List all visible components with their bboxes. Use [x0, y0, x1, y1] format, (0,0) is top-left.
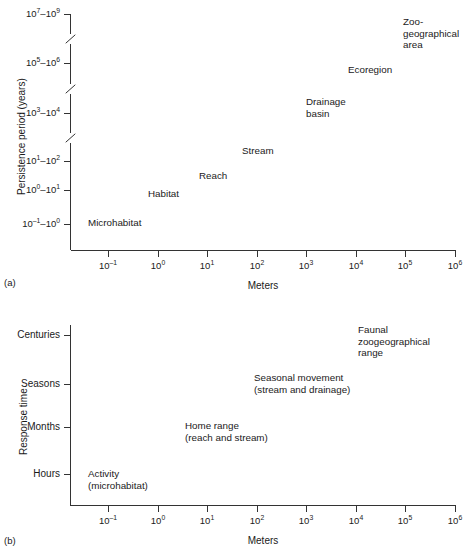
- data-label-faunal-line2: zoogeographical: [358, 336, 430, 348]
- y-tick-label: 10–1–100: [0, 219, 60, 229]
- x-tick-label: 105: [398, 516, 412, 526]
- x-tick-label: 102: [250, 261, 264, 271]
- x-tick-label: 106: [448, 516, 462, 526]
- x-tick-label: 10–1: [99, 516, 117, 526]
- data-label-faunal-range: Faunal zoogeographical range: [358, 324, 430, 359]
- axis-break-mark: [66, 134, 75, 142]
- data-label-home-range: Home range (reach and stream): [185, 420, 268, 443]
- x-tick-label: 105: [398, 261, 412, 271]
- data-label-activity-line1: Activity: [88, 468, 148, 480]
- data-label-home-range-line2: (reach and stream): [185, 432, 268, 444]
- y-tick-label: 100–101: [0, 185, 60, 195]
- x-tick-label: 10–1: [99, 261, 117, 271]
- x-tick-label: 100: [151, 516, 165, 526]
- data-label-ecoregion: Ecoregion: [348, 64, 392, 76]
- y-tick-label-centuries: Centuries: [0, 330, 60, 340]
- data-label-reach: Reach: [199, 170, 227, 182]
- data-label-activity: Activity (microhabitat): [88, 468, 148, 491]
- y-tick-label-months: Months: [0, 422, 60, 432]
- data-label-faunal-line3: range: [358, 347, 430, 359]
- data-label-activity-line2: (microhabitat): [88, 480, 148, 492]
- panel-a-letter: (a): [4, 277, 16, 288]
- x-tick-label: 106: [448, 261, 462, 271]
- data-label-seasonal-line1: Seasonal movement: [254, 372, 350, 384]
- y-tick-label: 103–104: [0, 108, 60, 118]
- x-tick-label: 100: [151, 261, 165, 271]
- y-tick-label: 105–106: [0, 58, 60, 68]
- data-label-zoo-line1: Zoo-: [403, 16, 459, 28]
- panel-a-axes: [0, 0, 470, 300]
- panel-a: Persistence period (years) 107–109 105–1…: [0, 0, 470, 300]
- data-label-habitat: Habitat: [148, 188, 179, 200]
- data-label-faunal-line1: Faunal: [358, 324, 430, 336]
- data-label-zoo-line2: geographical: [403, 28, 459, 40]
- x-tick-label: 102: [250, 516, 264, 526]
- data-label-drainage-line2: basin: [306, 108, 346, 120]
- data-label-zoogeographical-area: Zoo- geographical area: [403, 16, 459, 51]
- x-tick-label: 103: [299, 261, 313, 271]
- panel-a-y-axis-title: Persistence period (years): [16, 78, 27, 195]
- data-label-zoo-line3: area: [403, 39, 459, 51]
- panel-a-x-axis-title: Meters: [248, 280, 279, 291]
- axis-break-mark: [66, 35, 75, 43]
- data-label-drainage-line1: Drainage: [306, 96, 346, 108]
- y-tick-label: 107–109: [0, 9, 60, 19]
- x-tick-label: 104: [349, 516, 363, 526]
- x-tick-label: 103: [299, 516, 313, 526]
- y-tick-label: 101–102: [0, 156, 60, 166]
- axis-break-mark: [66, 85, 75, 93]
- x-tick-label: 104: [349, 261, 363, 271]
- panel-b: Response time Centuries Seasons Months H…: [0, 300, 470, 558]
- panel-b-letter: (b): [4, 535, 16, 546]
- x-tick-label: 101: [200, 516, 214, 526]
- x-tick-label: 101: [200, 261, 214, 271]
- data-label-seasonal-movement: Seasonal movement (stream and drainage): [254, 372, 350, 395]
- data-label-home-range-line1: Home range: [185, 420, 268, 432]
- data-label-drainage-basin: Drainage basin: [306, 96, 346, 119]
- data-label-seasonal-line2: (stream and drainage): [254, 384, 350, 396]
- y-tick-label-seasons: Seasons: [0, 379, 60, 389]
- data-label-microhabitat: Microhabitat: [88, 217, 141, 229]
- panel-b-x-axis-title: Meters: [248, 535, 279, 546]
- data-label-stream: Stream: [242, 145, 274, 157]
- y-tick-label-hours: Hours: [0, 469, 60, 479]
